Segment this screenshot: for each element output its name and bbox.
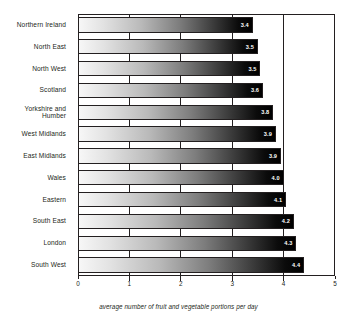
bar-value-label: 4.3 bbox=[284, 240, 292, 246]
category-label: Northern Ireland bbox=[0, 21, 66, 29]
x-axis-caption: average number of fruit and vegetable po… bbox=[0, 303, 357, 310]
bar-value-label: 4.4 bbox=[292, 262, 300, 268]
x-axis-tick-label: 0 bbox=[76, 280, 80, 287]
category-label: South West bbox=[0, 261, 66, 269]
category-label-column: Northern IrelandNorth EastNorth WestScot… bbox=[0, 14, 72, 276]
category-label: North East bbox=[0, 43, 66, 51]
bar-row: 3.4 bbox=[78, 17, 335, 32]
bar-value-label: 4.1 bbox=[274, 197, 282, 203]
bar-value-label: 3.5 bbox=[246, 44, 254, 50]
bar-row: 4.1 bbox=[78, 192, 335, 207]
plot-area: 3.43.53.53.63.83.93.94.04.14.24.34.4 bbox=[78, 14, 335, 276]
bar: 4.0 bbox=[78, 170, 284, 185]
bar-row: 3.6 bbox=[78, 83, 335, 98]
bar-row: 3.5 bbox=[78, 39, 335, 54]
x-axis-tick-label: 1 bbox=[128, 280, 132, 287]
category-label: Eastern bbox=[0, 196, 66, 204]
bar-value-label: 3.9 bbox=[269, 153, 277, 159]
bar: 3.5 bbox=[78, 39, 258, 54]
bar: 3.9 bbox=[78, 148, 281, 163]
bar-row: 3.5 bbox=[78, 61, 335, 76]
bar-row: 3.9 bbox=[78, 148, 335, 163]
bar-row: 4.3 bbox=[78, 236, 335, 251]
bar-row: 4.2 bbox=[78, 214, 335, 229]
bar: 3.9 bbox=[78, 126, 276, 141]
x-axis: 012345 bbox=[78, 276, 335, 292]
category-label: East Midlands bbox=[0, 152, 66, 160]
bar-value-label: 4.0 bbox=[272, 175, 280, 181]
bar: 3.4 bbox=[78, 17, 253, 32]
category-label: Scotland bbox=[0, 86, 66, 94]
bar-row: 4.4 bbox=[78, 257, 335, 272]
bar-row: 3.8 bbox=[78, 105, 335, 120]
x-axis-tick-label: 5 bbox=[333, 280, 337, 287]
bar-row: 4.0 bbox=[78, 170, 335, 185]
x-axis-tick-label: 3 bbox=[230, 280, 234, 287]
category-label: West Midlands bbox=[0, 130, 66, 138]
plot-top-border bbox=[78, 14, 335, 15]
x-axis-tick bbox=[335, 276, 336, 279]
x-axis-tick bbox=[129, 276, 130, 279]
category-label: North West bbox=[0, 65, 66, 73]
x-axis-tick bbox=[180, 276, 181, 279]
x-axis-tick-label: 4 bbox=[282, 280, 286, 287]
x-axis-tick bbox=[78, 276, 79, 279]
bar: 3.6 bbox=[78, 83, 263, 98]
bar: 4.1 bbox=[78, 192, 286, 207]
bar-value-label: 3.5 bbox=[248, 66, 256, 72]
x-axis-tick-label: 2 bbox=[179, 280, 183, 287]
bar-chart: Northern IrelandNorth EastNorth WestScot… bbox=[0, 0, 357, 325]
bar: 4.4 bbox=[78, 257, 304, 272]
x-axis-tick bbox=[232, 276, 233, 279]
bar-value-label: 3.6 bbox=[251, 87, 259, 93]
bar: 3.8 bbox=[78, 105, 273, 120]
category-label: Wales bbox=[0, 174, 66, 182]
category-label: Yorkshire and Humber bbox=[0, 105, 66, 120]
category-label: South East bbox=[0, 217, 66, 225]
bar: 4.2 bbox=[78, 214, 294, 229]
bar-value-label: 3.8 bbox=[261, 109, 269, 115]
bar-value-label: 3.4 bbox=[241, 22, 249, 28]
bar-row: 3.9 bbox=[78, 126, 335, 141]
bar: 4.3 bbox=[78, 236, 296, 251]
bar-value-label: 3.9 bbox=[264, 131, 272, 137]
category-label: London bbox=[0, 239, 66, 247]
x-axis-tick bbox=[283, 276, 284, 279]
bar: 3.5 bbox=[78, 61, 260, 76]
bar-value-label: 4.2 bbox=[282, 218, 290, 224]
